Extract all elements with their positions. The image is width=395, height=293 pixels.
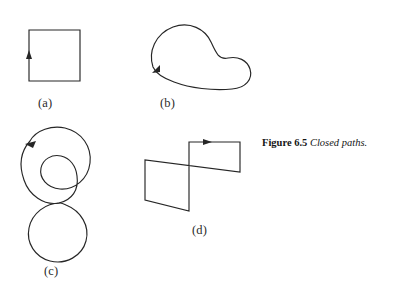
panel-d-shape xyxy=(145,139,240,211)
figure-caption-number: Figure 6.5 xyxy=(262,137,307,148)
figure-container: (a) (b) (c) (d) Figure 6.5 Closed paths. xyxy=(0,0,395,293)
polygon-path xyxy=(145,142,240,211)
panel-b-shape xyxy=(151,25,250,90)
panel-a-arrowhead-up xyxy=(26,50,32,59)
panel-label-b: (b) xyxy=(160,96,175,111)
figure-caption: Figure 6.5 Closed paths. xyxy=(262,136,392,149)
figure-caption-text: Closed paths. xyxy=(310,137,367,148)
square-path xyxy=(29,30,80,81)
panel-label-d: (d) xyxy=(192,223,207,238)
bean-path xyxy=(151,25,250,90)
spiral-upper-path xyxy=(21,127,90,203)
panel-c-shape xyxy=(21,127,90,262)
panel-b-arrowhead-downleft xyxy=(152,65,160,73)
panel-c-arrowhead-left xyxy=(25,141,36,148)
panel-label-c: (c) xyxy=(44,264,58,279)
panel-d-arrowhead-right xyxy=(203,139,212,145)
panel-label-a: (a) xyxy=(38,96,52,111)
spiral-lower-path xyxy=(28,203,87,262)
panel-a-shape xyxy=(26,30,80,81)
